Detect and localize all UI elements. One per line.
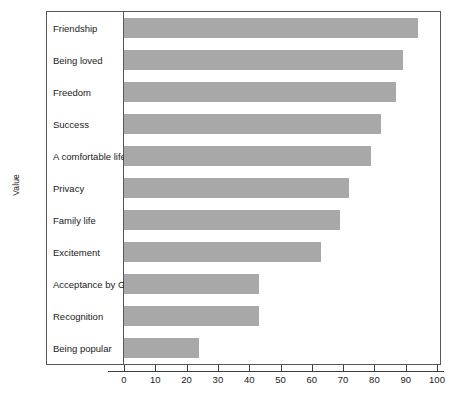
category-label: Family life [48, 215, 121, 226]
x-tick [374, 365, 375, 371]
x-tick-label: 90 [400, 374, 411, 385]
y-axis-title: Value [11, 155, 21, 215]
x-tick [437, 365, 438, 371]
x-tick [406, 365, 407, 371]
x-tick-label: 20 [181, 374, 192, 385]
bar [124, 114, 381, 134]
category-label: Being loved [48, 55, 121, 66]
bar-row [124, 44, 437, 76]
category-axis-labels: FriendshipBeing lovedFreedomSuccessA com… [48, 12, 121, 364]
x-tick-label: 60 [307, 374, 318, 385]
category-label: Success [48, 119, 121, 130]
x-tick-label: 40 [244, 374, 255, 385]
bar-row [124, 140, 437, 172]
bar [124, 210, 340, 230]
bar-row [124, 332, 437, 364]
x-tick [312, 365, 313, 371]
x-tick [124, 365, 125, 371]
category-label: Freedom [48, 87, 121, 98]
bar-row [124, 76, 437, 108]
bar-row [124, 300, 437, 332]
category-label: Being popular [48, 343, 121, 354]
bar [124, 50, 403, 70]
bar-row [124, 236, 437, 268]
x-tick-label: 0 [121, 374, 126, 385]
category-label: Excitement [48, 247, 121, 258]
x-axis-tick-labels: 0102030405060708090100 [124, 374, 437, 388]
x-axis-ticks [124, 365, 437, 372]
bar-row [124, 172, 437, 204]
category-label: Privacy [48, 183, 121, 194]
category-label: Acceptance by God [48, 279, 121, 290]
x-tick [155, 365, 156, 371]
x-tick-label: 100 [429, 374, 445, 385]
x-tick [187, 365, 188, 371]
bar-row [124, 268, 437, 300]
x-tick-label: 10 [150, 374, 161, 385]
bar [124, 274, 259, 294]
bar [124, 178, 349, 198]
bar [124, 18, 418, 38]
category-label: Friendship [48, 23, 121, 34]
x-tick-label: 30 [213, 374, 224, 385]
bar-row [124, 108, 437, 140]
bar [124, 242, 321, 262]
bar-chart: Value FriendshipBeing lovedFreedomSucces… [0, 0, 451, 395]
bar [124, 306, 259, 326]
bar-row [124, 204, 437, 236]
x-tick [343, 365, 344, 371]
category-label: A comfortable life [48, 151, 121, 162]
x-tick-label: 80 [369, 374, 380, 385]
bar [124, 82, 396, 102]
bar [124, 146, 371, 166]
plot-area [124, 12, 437, 364]
bar [124, 338, 199, 358]
x-tick-label: 70 [338, 374, 349, 385]
x-tick [218, 365, 219, 371]
bar-row [124, 12, 437, 44]
x-tick [249, 365, 250, 371]
x-tick-label: 50 [275, 374, 286, 385]
x-tick [281, 365, 282, 371]
category-label: Recognition [48, 311, 121, 322]
